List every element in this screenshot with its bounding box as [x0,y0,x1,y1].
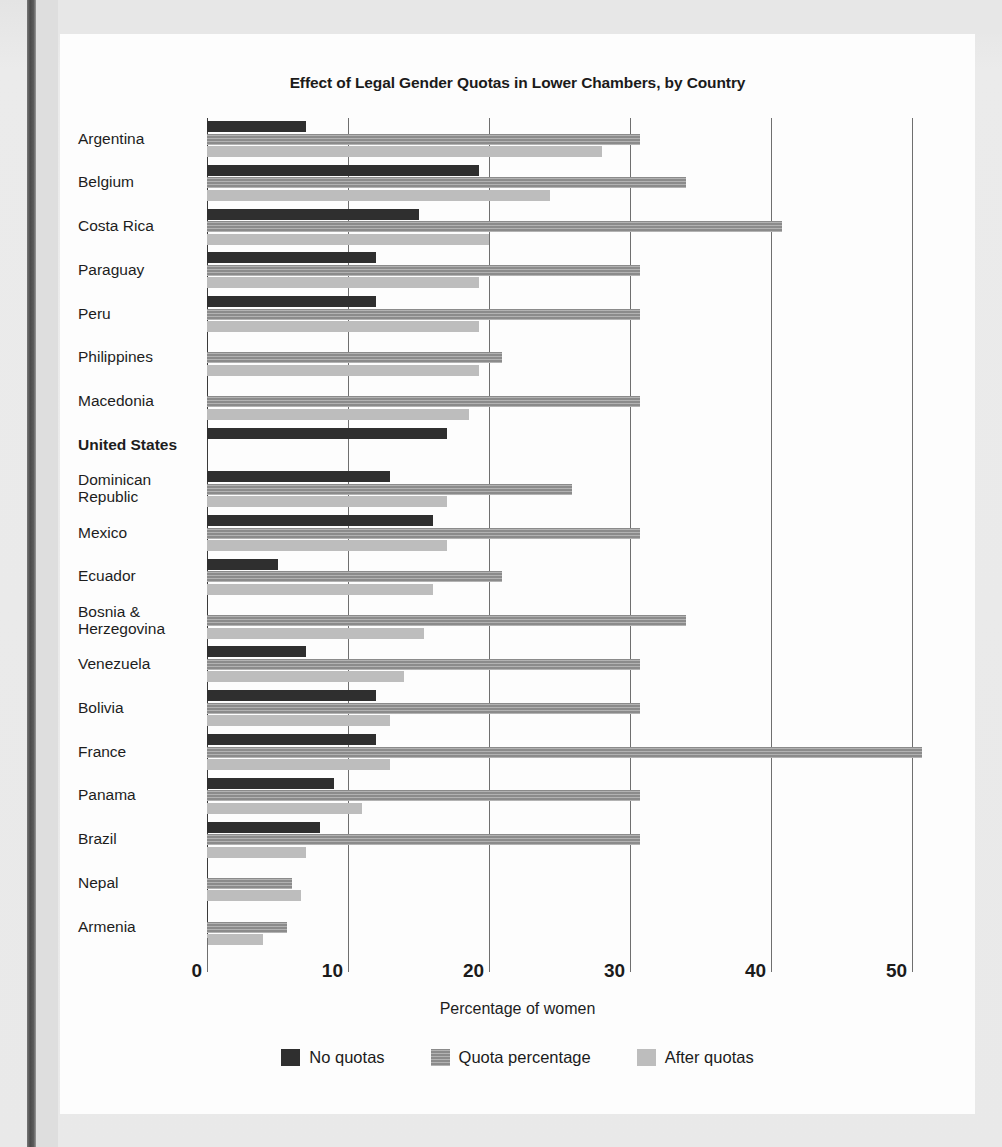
bar-no-quotas [207,559,278,570]
bar-group [207,381,972,425]
bar-group [207,293,972,337]
bar-quota-percentage [207,878,292,889]
bar-no-quotas [207,209,419,220]
legend-label: Quota percentage [459,1048,591,1067]
bar-quota-percentage [207,396,640,407]
bar-quota-percentage [207,747,922,758]
bar-no-quotas [207,296,376,307]
bar-quota-percentage [207,309,640,320]
bar-after-quotas [207,146,602,157]
bar-quota-percentage [207,528,640,539]
x-tick-mark-10 [348,938,349,972]
bar-group [207,425,972,469]
bar-no-quotas [207,165,479,176]
category-label-brazil: Brazil [78,830,198,847]
bar-after-quotas [207,584,433,595]
category-label-bosnia-herzegovina: Bosnia & Herzegovina [78,603,198,637]
legend-label: No quotas [309,1048,384,1067]
bar-no-quotas [207,822,320,833]
bar-after-quotas [207,540,447,551]
x-tick-label-30: 30 [604,960,630,982]
bar-quota-percentage [207,790,640,801]
bar-quota-percentage [207,177,686,188]
bar-group [207,775,972,819]
bar-group [207,731,972,775]
bar-group [207,118,972,162]
bar-quota-percentage [207,834,640,845]
x-tick-label-50: 50 [886,960,912,982]
bar-quota-percentage [207,221,782,232]
book-spine-shadow [27,0,36,1147]
bar-no-quotas [207,428,447,439]
bar-quota-percentage [207,134,640,145]
category-label-bolivia: Bolivia [78,699,198,716]
x-tick-mark-20 [489,938,490,972]
bar-group [207,512,972,556]
category-label-dominican-republic: Dominican Republic [78,471,198,505]
bar-no-quotas [207,690,376,701]
bar-group [207,337,972,381]
bar-quota-percentage [207,571,502,582]
legend-swatch-icon [281,1049,300,1066]
bar-after-quotas [207,321,479,332]
x-tick-mark-0 [207,938,208,972]
category-label-nepal: Nepal [78,874,198,891]
legend-item-after-quotas[interactable]: After quotas [637,1048,754,1067]
category-label-armenia: Armenia [78,918,198,935]
category-label-paraguay: Paraguay [78,261,198,278]
bar-after-quotas [207,628,424,639]
x-tick-label-10: 10 [322,960,348,982]
x-axis-ticks: 01020304050 [207,950,972,984]
bar-quota-percentage [207,265,640,276]
bar-group [207,468,972,512]
bar-after-quotas [207,803,362,814]
category-label-costa-rica: Costa Rica [78,217,198,234]
bar-quota-percentage [207,922,287,933]
chart-legend: No quotasQuota percentageAfter quotas [60,1048,975,1067]
bar-no-quotas [207,778,334,789]
bar-group [207,643,972,687]
bar-after-quotas [207,190,550,201]
category-label-france: France [78,743,198,760]
category-label-peru: Peru [78,305,198,322]
legend-swatch-icon [431,1049,450,1066]
legend-label: After quotas [665,1048,754,1067]
bar-no-quotas [207,471,390,482]
category-label-argentina: Argentina [78,130,198,147]
x-tick-label-20: 20 [463,960,489,982]
bar-quota-percentage [207,703,640,714]
bar-quota-percentage [207,659,640,670]
bar-group [207,162,972,206]
bar-after-quotas [207,934,263,945]
bar-after-quotas [207,890,301,901]
bar-after-quotas [207,234,489,245]
x-tick-label-40: 40 [745,960,771,982]
legend-item-no-quotas[interactable]: No quotas [281,1048,384,1067]
bar-no-quotas [207,515,433,526]
legend-swatch-icon [637,1049,656,1066]
category-axis-labels: ArgentinaBelgiumCosta RicaParaguayPeruPh… [78,118,204,950]
bar-after-quotas [207,759,390,770]
bar-group [207,819,972,863]
bar-quota-percentage [207,352,502,363]
bar-group [207,862,972,906]
bar-group [207,600,972,644]
bar-quota-percentage [207,615,686,626]
x-tick-mark-40 [771,938,772,972]
bar-group [207,556,972,600]
category-label-ecuador: Ecuador [78,567,198,584]
category-label-philippines: Philippines [78,348,198,365]
bar-after-quotas [207,715,390,726]
legend-item-quota-percentage[interactable]: Quota percentage [431,1048,591,1067]
chart-title: Effect of Legal Gender Quotas in Lower C… [60,74,975,92]
bar-after-quotas [207,496,447,507]
x-tick-mark-30 [630,938,631,972]
bar-after-quotas [207,365,479,376]
category-label-venezuela: Venezuela [78,655,198,672]
bar-after-quotas [207,277,479,288]
x-axis-label: Percentage of women [60,1000,975,1018]
category-label-macedonia: Macedonia [78,392,198,409]
bar-group [207,906,972,950]
page-top-strip [58,0,1002,34]
book-margin [36,0,58,1147]
